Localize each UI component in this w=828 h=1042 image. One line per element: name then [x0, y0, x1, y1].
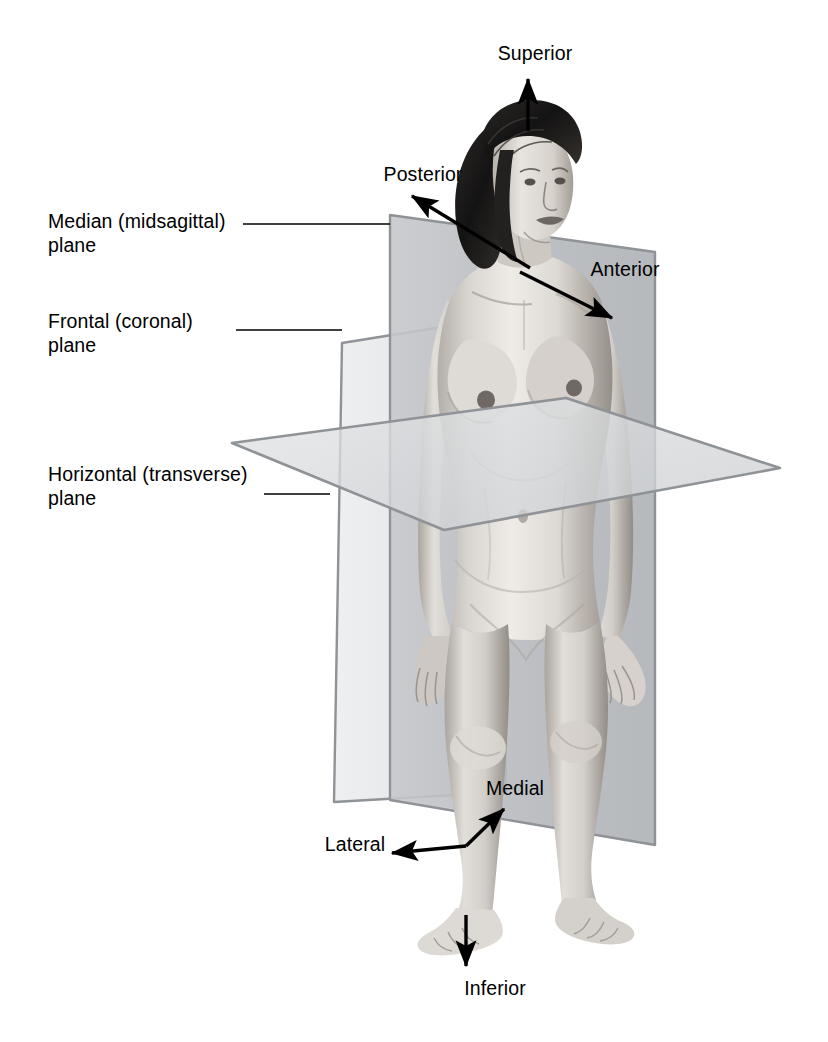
plane-label-median: Median (midsagittal) plane: [48, 210, 226, 258]
plane-label-horizontal: Horizontal (transverse) plane: [48, 463, 248, 511]
direction-label-lateral: Lateral: [260, 833, 450, 857]
plane-label-frontal: Frontal (coronal) plane: [48, 310, 193, 358]
direction-label-inferior: Inferior: [400, 977, 590, 1001]
horizontal-transverse-plane: [232, 398, 780, 530]
direction-label-posterior: Posterior: [328, 163, 518, 187]
anatomical-figure: [0, 0, 828, 1042]
figure-canvas: [0, 0, 828, 1042]
direction-label-superior: Superior: [440, 42, 630, 66]
direction-label-medial: Medial: [420, 777, 610, 801]
direction-label-anterior: Anterior: [530, 258, 720, 282]
